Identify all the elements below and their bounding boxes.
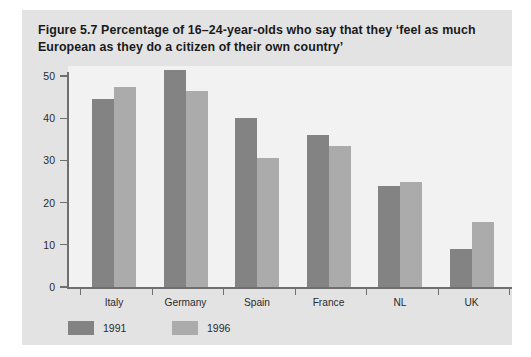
- bar-france-1996: [329, 146, 351, 287]
- y-axis-label: 20: [22, 197, 55, 209]
- legend-swatch-1991: [68, 321, 94, 335]
- legend-item-1991: 1991: [68, 321, 126, 335]
- x-axis-tick: [152, 288, 153, 295]
- x-axis-tick: [509, 288, 510, 295]
- y-axis-label: 10: [22, 239, 55, 251]
- legend-item-1996: 1996: [172, 321, 230, 335]
- bar-italy-1991: [92, 99, 114, 287]
- bar-germany-1996: [186, 91, 208, 287]
- y-axis-tick: [60, 160, 67, 161]
- legend-label-1996: 1996: [207, 322, 230, 334]
- y-axis-label: 0: [22, 281, 55, 293]
- x-axis-line: [67, 287, 512, 289]
- x-axis-category-label: NL: [393, 297, 406, 308]
- x-axis-category-label: Germany: [165, 297, 207, 308]
- legend-label-1991: 1991: [103, 322, 126, 334]
- x-axis-category-label: France: [313, 297, 345, 308]
- figure-title: Figure 5.7 Percentage of 16–24-year-olds…: [38, 22, 490, 55]
- bar-spain-1991: [235, 118, 257, 287]
- bar-uk-1996: [472, 222, 494, 287]
- y-axis-tick: [60, 286, 67, 287]
- bar-spain-1996: [257, 158, 279, 287]
- y-axis-label: 50: [22, 70, 55, 82]
- bar-nl-1996: [400, 182, 422, 288]
- y-axis-tick: [60, 118, 67, 119]
- bar-nl-1991: [378, 186, 400, 287]
- x-axis-tick: [438, 288, 439, 295]
- bar-italy-1996: [114, 87, 136, 287]
- x-axis-tick: [80, 288, 81, 295]
- bar-germany-1991: [164, 70, 186, 287]
- y-axis-tick: [60, 244, 67, 245]
- x-axis-category-label: UK: [464, 297, 478, 308]
- y-axis-label: 40: [22, 112, 55, 124]
- y-axis-label: 30: [22, 154, 55, 166]
- x-axis-category-label: Spain: [244, 297, 270, 308]
- y-axis-tick: [60, 75, 67, 76]
- x-axis-tick: [295, 288, 296, 295]
- bar-uk-1991: [450, 249, 472, 287]
- y-axis-tick: [60, 202, 67, 203]
- x-axis-tick: [366, 288, 367, 295]
- x-axis-tick: [223, 288, 224, 295]
- x-axis-category-label: Italy: [105, 297, 124, 308]
- legend-swatch-1996: [172, 321, 198, 335]
- bar-france-1991: [307, 135, 329, 287]
- figure-panel: Figure 5.7 Percentage of 16–24-year-olds…: [22, 10, 512, 345]
- y-axis-line: [67, 72, 69, 288]
